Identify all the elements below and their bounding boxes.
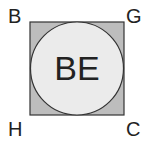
center-label: BE: [54, 49, 99, 87]
corner-label-bottom-left: H: [8, 119, 22, 139]
corner-label-bottom-right: C: [126, 119, 140, 139]
corner-label-top-right: G: [126, 6, 142, 26]
corner-label-top-left: B: [8, 6, 21, 26]
